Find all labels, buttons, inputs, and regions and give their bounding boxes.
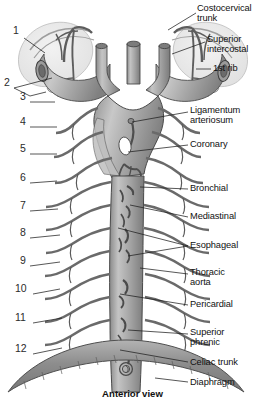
figure-caption: Anterior view xyxy=(0,388,265,399)
number-label-2: 2 xyxy=(4,76,10,88)
label-thoracic-aorta: Thoracic aorta xyxy=(190,267,225,287)
number-label-10: 10 xyxy=(15,282,27,294)
label-mediastinal: Mediastinal xyxy=(190,211,236,221)
number-label-7: 7 xyxy=(20,199,26,211)
label-celiac-trunk: Celiac trunk xyxy=(190,357,238,367)
number-label-8: 8 xyxy=(20,226,26,238)
number-label-11: 11 xyxy=(15,311,26,323)
number-label-3: 3 xyxy=(20,90,26,102)
aortic-arch xyxy=(93,96,164,178)
label-superior-phrenic: Superior phrenic xyxy=(190,327,224,347)
label-esophageal: Esophageal xyxy=(190,240,238,250)
number-label-4: 4 xyxy=(20,115,26,127)
number-label-6: 6 xyxy=(20,171,26,183)
number-label-9: 9 xyxy=(20,254,26,266)
label-diaphragm: Diaphragm xyxy=(190,377,235,387)
label-pericardial: Pericardial xyxy=(190,299,233,309)
number-label-12: 12 xyxy=(15,342,27,354)
number-label-1: 1 xyxy=(13,24,19,36)
label-superior-intercostal: Superior intercostal xyxy=(207,34,248,54)
bracket-marker-2 xyxy=(14,88,46,96)
thoracic-aorta-diagram xyxy=(0,0,265,405)
label-costocervical-trunk: Costocervical trunk xyxy=(197,3,252,23)
brachiocephalic-trunk xyxy=(127,41,140,84)
label-bronchial: Bronchial xyxy=(190,183,228,193)
label-ligamentum-arteriosum: Ligamentum arteriosum xyxy=(190,105,240,125)
label-first-rib: 1st rib xyxy=(213,63,238,73)
label-coronary: Coronary xyxy=(190,139,227,149)
number-label-5: 5 xyxy=(20,142,26,154)
